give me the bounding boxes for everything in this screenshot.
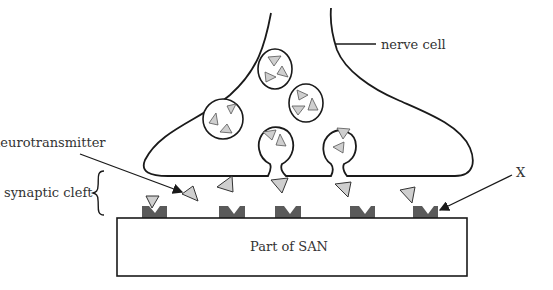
fusing-vesicle-contents	[263, 128, 350, 153]
neurotransmitter-label: neurotransmitter	[0, 136, 106, 149]
vesicle	[289, 84, 323, 122]
nerve-cell-label: nerve cell	[381, 38, 446, 51]
synaptic-cleft-label: synaptic cleft	[4, 186, 92, 199]
vesicle	[203, 99, 243, 139]
san-label: Part of SAN	[250, 240, 328, 253]
neurotransmitter-molecules	[146, 176, 415, 208]
x-label: X	[516, 166, 525, 179]
receptors	[142, 206, 438, 218]
vesicle	[258, 49, 292, 89]
synapse-diagram: nerve cell neurotransmitter synaptic cle…	[0, 0, 553, 290]
neurotransmitter-pointer	[80, 154, 182, 192]
synaptic-cleft-brace	[93, 171, 104, 215]
x-pointer	[440, 175, 512, 210]
